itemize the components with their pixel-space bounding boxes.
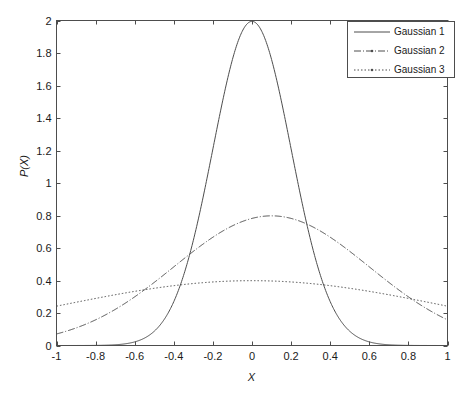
x-tick-label: 0.2: [283, 350, 298, 362]
curve-gaussian-3: [57, 281, 448, 307]
legend-line-sample-3: [353, 63, 391, 77]
legend-item-gaussian-2[interactable]: Gaussian 2: [348, 41, 454, 60]
y-tick-label: 0.2: [0, 307, 52, 319]
y-tick-label: 2: [0, 15, 52, 27]
y-tick-label: 1.8: [0, 47, 52, 59]
x-tick-label: 0.4: [323, 350, 338, 362]
legend: Gaussian 1 Gaussian 2 Gaussian 3: [347, 21, 455, 78]
y-tick-label: 0.8: [0, 210, 52, 222]
legend-item-gaussian-1[interactable]: Gaussian 1: [348, 22, 454, 41]
y-tick-label: 0.4: [0, 275, 52, 287]
x-tick-label: -0.8: [86, 350, 105, 362]
legend-item-gaussian-3[interactable]: Gaussian 3: [348, 60, 454, 79]
legend-line-sample-2: [353, 44, 391, 58]
legend-label-1: Gaussian 1: [394, 26, 445, 37]
x-tick-label: -0.6: [125, 350, 144, 362]
x-tick-label: -1: [52, 350, 62, 362]
legend-line-sample-1: [353, 25, 391, 39]
x-tick-label: -0.4: [164, 350, 183, 362]
y-tick-label: 1.6: [0, 80, 52, 92]
curve-gaussian-2: [57, 216, 448, 334]
x-tick-label: 0: [249, 350, 255, 362]
y-tick-label: 0: [0, 340, 52, 352]
legend-label-2: Gaussian 2: [394, 45, 445, 56]
y-tick-label: 0.6: [0, 242, 52, 254]
y-tick-label: 1.4: [0, 112, 52, 124]
x-tick-label: -0.2: [203, 350, 222, 362]
legend-label-3: Gaussian 3: [394, 64, 445, 75]
x-tick-label: 1: [444, 350, 450, 362]
y-tick-label: 1.2: [0, 145, 52, 157]
x-tick-label: 0.6: [362, 350, 377, 362]
y-tick-label: 1: [0, 177, 52, 189]
x-axis-title: X: [56, 371, 447, 383]
gaussian-distributions-figure: P(X) X -1-0.8-0.6-0.4-0.200.20.40.60.81 …: [0, 0, 468, 393]
x-tick-label: 0.8: [401, 350, 416, 362]
